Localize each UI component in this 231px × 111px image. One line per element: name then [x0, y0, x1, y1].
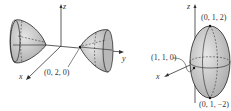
- top-point-label: (0, 1, 2): [201, 13, 226, 22]
- z-axis-label-right: z: [187, 2, 190, 11]
- point-label-020: (0, 2, 0): [44, 68, 69, 77]
- bottom-point-label: (0, 1, −2): [199, 100, 229, 109]
- side-point-label: (1, 1, 0): [151, 53, 176, 62]
- x-axis-label-left: x: [19, 72, 23, 81]
- diagram-canvas: [0, 0, 231, 111]
- z-axis-label-left: z: [63, 2, 66, 11]
- y-axis-label-left: y: [122, 54, 126, 63]
- x-axis-label-right: x: [156, 72, 160, 81]
